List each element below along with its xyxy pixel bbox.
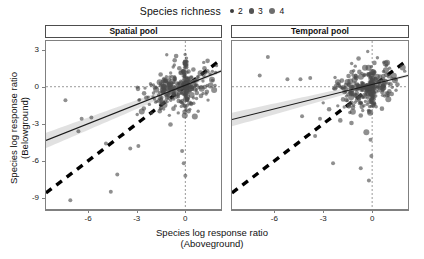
data-point	[362, 104, 365, 107]
data-point	[63, 98, 67, 102]
data-point	[353, 101, 356, 104]
data-point	[173, 63, 176, 66]
data-point	[285, 77, 289, 81]
legend-key-label: 2	[238, 6, 243, 16]
data-point	[183, 61, 188, 66]
data-point	[169, 71, 172, 74]
data-point	[343, 105, 346, 108]
data-point	[371, 102, 374, 105]
data-point	[182, 104, 187, 109]
data-point	[376, 85, 379, 88]
data-point	[180, 149, 184, 153]
data-point	[348, 94, 354, 100]
data-point	[372, 61, 377, 66]
data-point	[356, 83, 359, 86]
plot-panel-temporal-pool	[231, 40, 409, 210]
y-axis-title-line2: (Belowground)	[20, 38, 31, 218]
y-tick-mark	[42, 161, 45, 162]
data-point	[313, 134, 317, 138]
data-point	[159, 107, 162, 110]
data-point	[186, 109, 191, 114]
legend-dot-icon	[249, 8, 254, 13]
data-point	[172, 58, 177, 63]
data-point	[128, 146, 132, 150]
data-point	[370, 65, 373, 68]
legend-key-label: 3	[258, 6, 263, 16]
data-point	[194, 83, 197, 86]
data-point	[177, 66, 182, 71]
data-point	[341, 87, 344, 90]
data-point	[168, 114, 171, 117]
data-point	[165, 53, 168, 56]
data-point	[352, 77, 358, 83]
data-point	[363, 73, 366, 76]
data-point	[327, 107, 332, 112]
data-point	[182, 112, 188, 118]
data-point	[139, 108, 145, 114]
x-tick-label: -3	[125, 215, 149, 223]
data-point	[173, 78, 176, 81]
data-point	[334, 84, 337, 87]
data-point	[381, 83, 386, 88]
x-axis-title: Species log response ratio (Aboveground)	[0, 228, 424, 249]
legend-key-label: 4	[279, 6, 284, 16]
data-point	[68, 198, 72, 202]
data-point	[344, 98, 349, 103]
data-point	[162, 102, 168, 108]
panel-strip-spatial-pool: Spatial pool	[45, 25, 222, 38]
data-point	[162, 107, 165, 110]
data-point	[161, 84, 167, 90]
data-point	[385, 64, 388, 67]
data-point	[199, 85, 204, 90]
data-point	[157, 79, 163, 85]
data-point	[350, 62, 353, 65]
data-point	[352, 104, 355, 107]
scatter-canvas	[232, 41, 408, 209]
data-point	[346, 74, 351, 79]
x-tick-label: 0	[360, 215, 384, 223]
data-point	[372, 105, 375, 108]
data-point	[331, 161, 335, 165]
data-point	[109, 190, 113, 194]
plot-panel-spatial-pool	[45, 40, 222, 210]
data-point	[174, 54, 179, 59]
data-point	[361, 109, 364, 112]
data-point	[136, 144, 140, 148]
data-point	[158, 91, 161, 94]
data-point	[104, 142, 108, 146]
data-point	[350, 109, 356, 115]
x-axis-title-line2: (Aboveground)	[0, 239, 424, 250]
data-point	[179, 101, 182, 104]
data-point	[364, 100, 367, 103]
data-point	[322, 101, 325, 104]
data-point	[336, 104, 339, 107]
data-point	[205, 84, 208, 87]
data-point	[347, 82, 352, 87]
y-tick-mark	[42, 198, 45, 199]
legend-key-2: 2	[230, 6, 243, 16]
data-point	[115, 172, 119, 176]
data-point	[389, 92, 394, 97]
data-point	[201, 79, 204, 82]
data-point	[351, 85, 354, 88]
data-point	[215, 64, 218, 67]
data-point	[358, 113, 363, 118]
data-point	[338, 118, 343, 123]
legend-title: Species richness	[140, 5, 221, 17]
data-point	[318, 117, 322, 121]
data-point	[159, 98, 164, 103]
data-point	[162, 77, 165, 80]
data-point	[369, 92, 372, 95]
data-point	[148, 103, 151, 106]
data-point	[177, 111, 180, 114]
data-point	[388, 67, 391, 70]
data-point	[167, 81, 173, 87]
x-axis-line	[231, 210, 409, 211]
data-point	[168, 122, 173, 127]
data-point	[213, 84, 216, 87]
data-point	[363, 129, 369, 135]
data-point	[195, 97, 198, 100]
data-point	[349, 121, 354, 126]
legend-key-4: 4	[269, 6, 284, 16]
data-point	[367, 179, 371, 183]
